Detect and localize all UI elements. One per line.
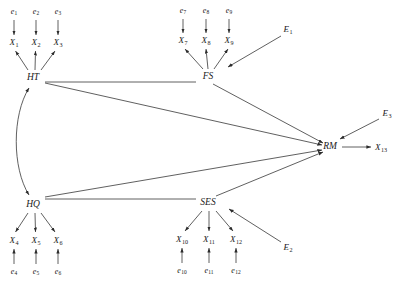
error-node-e7: e7	[180, 7, 187, 16]
observed-node-x12: X12	[230, 235, 242, 245]
structural-arrow-hq-rm	[45, 150, 322, 197]
latent-node-hq: HQ	[26, 200, 40, 210]
error-node-e8: e8	[203, 7, 210, 16]
loading-arrow-ht-x1	[16, 51, 29, 70]
loading-arrow-hq-x5	[35, 213, 36, 232]
loading-arrow-ses-x12	[216, 211, 233, 231]
latent-node-ses: SES	[200, 198, 215, 208]
structural-arrow-ht-rm	[45, 83, 322, 145]
observed-node-x9: X9	[225, 36, 234, 46]
disturbance-arrow-e1-fs	[228, 36, 281, 67]
observed-node-x1: X1	[10, 38, 19, 48]
observed-node-x7: X7	[179, 36, 188, 46]
error-node-e1: e1	[11, 8, 18, 17]
observed-node-x5: X5	[32, 236, 41, 246]
loading-arrow-fs-x9	[214, 49, 228, 69]
loading-arrow-hq-x4	[16, 213, 29, 232]
latent-node-rm: RM	[323, 142, 337, 152]
error-node-e5: e5	[33, 268, 40, 277]
error-node-e4: e4	[11, 268, 18, 277]
latent-node-ht: HT	[27, 73, 39, 83]
disturbance-node-e3: E3	[383, 109, 392, 119]
disturbance-node-e2: E2	[284, 243, 293, 253]
observed-node-x11: X11	[203, 235, 215, 245]
observed-node-x2: X2	[32, 38, 41, 48]
loading-arrow-fs-x7	[185, 49, 203, 69]
observed-node-x4: X4	[10, 236, 19, 246]
error-node-e10: e10	[177, 267, 186, 276]
observed-node-x10: X10	[176, 235, 188, 245]
loading-arrow-ht-x2	[35, 51, 36, 70]
disturbance-arrow-e3-rm	[340, 119, 379, 139]
error-node-e11: e11	[204, 267, 213, 276]
error-node-e9: e9	[226, 7, 233, 16]
loading-arrow-hq-x6	[41, 213, 55, 232]
error-node-e3: e3	[55, 8, 62, 17]
error-node-e12: e12	[231, 267, 240, 276]
observed-node-x8: X8	[202, 36, 211, 46]
disturbance-node-e1: E1	[284, 25, 293, 35]
observed-node-x3: X3	[54, 38, 63, 48]
covariance-arrow-ht-hq	[16, 88, 29, 195]
structural-arrow-fs-rm	[213, 84, 323, 143]
error-node-e6: e6	[55, 268, 62, 277]
observed-node-x6: X6	[54, 236, 63, 246]
loading-arrow-ses-x10	[185, 211, 202, 231]
sem-path-diagram: HT FS HQ SES RM X1 X2 X3 X7 X8 X9 X4 X5 …	[0, 0, 401, 288]
latent-node-fs: FS	[203, 72, 214, 82]
observed-node-x13: X13	[375, 143, 387, 153]
error-node-e2: e2	[33, 8, 40, 17]
loading-arrow-fs-x8	[206, 49, 208, 69]
loading-arrow-ht-x3	[41, 51, 55, 70]
